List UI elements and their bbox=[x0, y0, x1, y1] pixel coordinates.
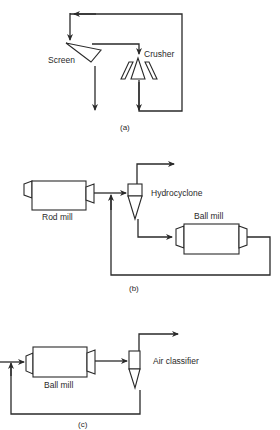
panel-c: Ball mill Air classifier (c) bbox=[0, 334, 199, 429]
arrow-hydrocyclone-overflow bbox=[137, 164, 174, 184]
panel-b: Rod mill Hydrocyclone Ball mill (b) bbox=[24, 164, 270, 293]
screen-label: Screen bbox=[48, 55, 75, 65]
ball-mill-label-b: Ball mill bbox=[194, 211, 223, 221]
air-classifier-label: Air classifier bbox=[153, 356, 199, 366]
recycle-line-a bbox=[70, 14, 182, 111]
crusher-label: Crusher bbox=[144, 49, 174, 59]
arrow-classifier-fines bbox=[139, 334, 178, 351]
hydrocyclone-icon bbox=[128, 184, 142, 219]
ball-mill-icon-b bbox=[176, 224, 247, 254]
panel-a: Screen Crusher (a) bbox=[48, 13, 182, 132]
caption-a: (a) bbox=[120, 123, 130, 132]
ball-mill-icon-c bbox=[26, 347, 95, 377]
crusher-icon bbox=[121, 58, 157, 79]
rod-mill-icon bbox=[24, 181, 94, 210]
ball-mill-label-c: Ball mill bbox=[44, 380, 73, 390]
caption-b: (b) bbox=[129, 284, 139, 293]
air-classifier-icon bbox=[129, 351, 140, 388]
hydrocyclone-label: Hydrocyclone bbox=[151, 188, 203, 198]
arrow-underflow-to-ballmill bbox=[138, 219, 172, 237]
comminution-circuits-diagram: Screen Crusher (a) Rod mill Hydro bbox=[0, 0, 280, 430]
caption-c: (c) bbox=[78, 420, 88, 429]
rod-mill-label: Rod mill bbox=[42, 212, 73, 222]
